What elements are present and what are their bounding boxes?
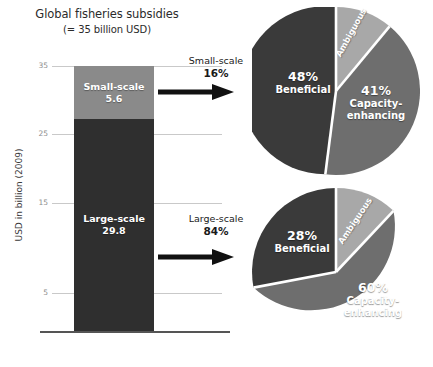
bar-segment-small-scale: Small-scale 5.6	[74, 66, 154, 119]
pie-top-beneficial-label: 48% Beneficial	[260, 69, 346, 96]
bar-segment-small-scale-label: Small-scale	[83, 81, 144, 93]
callout-large-scale-pct: 84%	[176, 225, 256, 238]
pie-chart-small-scale: 48% Beneficial 41% Capacity- enhancing A…	[252, 7, 420, 175]
y-axis-title: USD in billion (2009)	[14, 115, 24, 275]
bar-segment-large-scale-label: Large-scale	[83, 213, 145, 225]
y-tick-25: 25	[26, 129, 48, 138]
pie-bottom-capacity-label: 60% Capacity- enhancing	[332, 280, 414, 319]
callout-small-scale-label: Small-scale	[176, 55, 256, 67]
pie-chart-large-scale: 28% Beneficial 60% Capacity- enhancing A…	[252, 188, 420, 356]
pie-bottom-beneficial-label: 28% Beneficial	[258, 228, 346, 255]
arrow-small-scale-icon	[158, 82, 236, 102]
arrow-large-scale-icon	[158, 247, 236, 267]
callout-small-scale: Small-scale 16%	[176, 55, 256, 80]
page-subtitle: (= 35 billion USD)	[14, 24, 200, 35]
y-tick-15: 15	[26, 198, 48, 207]
callout-large-scale: Large-scale 84%	[176, 213, 256, 238]
bar-segment-large-scale-value: 29.8	[102, 225, 125, 237]
bar-segment-small-scale-value: 5.6	[106, 93, 123, 105]
x-axis-baseline	[40, 331, 230, 333]
callout-small-scale-pct: 16%	[176, 67, 256, 80]
bar-segment-large-scale: Large-scale 29.8	[74, 119, 154, 331]
figure-canvas: Global fisheries subsidies (= 35 billion…	[0, 0, 433, 367]
page-title: Global fisheries subsidies	[14, 8, 200, 22]
callout-large-scale-label: Large-scale	[176, 213, 256, 225]
pie-top-capacity-label: 41% Capacity- enhancing	[336, 83, 416, 122]
y-tick-5: 5	[26, 288, 48, 297]
y-tick-35: 35	[26, 61, 48, 70]
